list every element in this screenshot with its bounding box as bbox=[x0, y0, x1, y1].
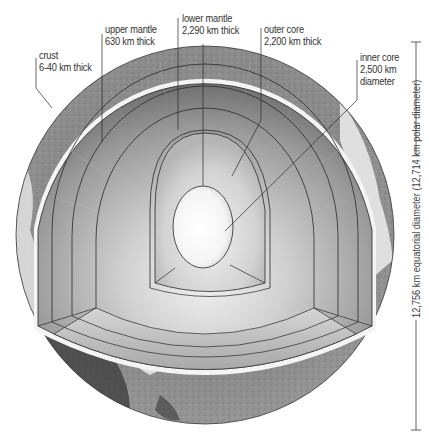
inner-core-detail-1: 2,500 km bbox=[360, 63, 399, 75]
upper-mantle-label: upper mantle 630 km thick bbox=[105, 23, 157, 47]
crust-label: crust 6-40 km thick bbox=[39, 49, 92, 73]
crust-name: crust bbox=[39, 49, 92, 61]
inner-core bbox=[173, 186, 233, 268]
inner-core-name: inner core bbox=[360, 51, 399, 63]
diameter-label: 12,756 km equatorial diameter (12,714 km… bbox=[410, 80, 422, 318]
lower-mantle-name: lower mantle bbox=[182, 12, 239, 24]
upper-mantle-name: upper mantle bbox=[105, 23, 157, 35]
lower-mantle-detail: 2,290 km thick bbox=[182, 24, 239, 36]
lower-mantle-label: lower mantle 2,290 km thick bbox=[182, 12, 239, 36]
outer-core-name: outer core bbox=[264, 23, 321, 35]
outer-core-label: outer core 2,200 km thick bbox=[264, 23, 321, 47]
inner-core-detail-2: diameter bbox=[360, 75, 399, 87]
outer-core-detail: 2,200 km thick bbox=[264, 35, 321, 47]
inner-core-label: inner core 2,500 km diameter bbox=[360, 51, 399, 87]
upper-mantle-detail: 630 km thick bbox=[105, 35, 157, 47]
crust-detail: 6-40 km thick bbox=[39, 61, 92, 73]
